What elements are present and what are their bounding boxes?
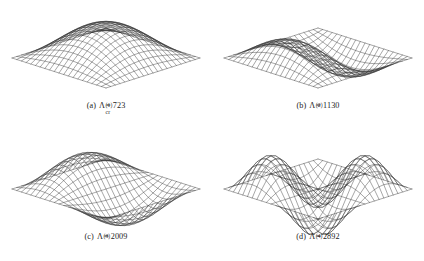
mesh-gridline-u xyxy=(243,159,337,235)
mesh-gridline-v xyxy=(21,158,115,192)
mesh-gridline-v xyxy=(295,156,389,235)
mesh-gridline-v xyxy=(64,176,158,206)
caption-b-value: 1130 xyxy=(323,101,339,110)
caption-b-tag: (b) xyxy=(296,101,306,110)
mesh-gridline-u xyxy=(26,179,120,220)
mesh-svg-d xyxy=(212,131,424,235)
mesh-gridline-v xyxy=(101,57,195,87)
caption-d-tag: (d) xyxy=(296,232,306,241)
caption-b-symbol: Λ xyxy=(309,101,315,110)
mesh-gridline-u xyxy=(238,165,332,234)
caption-a-symbol: Λ xyxy=(99,101,105,110)
subfigure-c: (c)Λ(3)=2009 xyxy=(0,131,212,261)
mesh-gridline-u xyxy=(229,57,323,87)
mesh-gridline-v xyxy=(83,40,177,81)
mesh-gridline-u xyxy=(257,159,351,228)
mesh-gridline-v xyxy=(64,25,158,75)
mesh-gridline-u xyxy=(87,27,181,64)
mesh-gridline-v xyxy=(101,188,195,218)
mesh-gridline-v xyxy=(68,27,162,76)
figure-root: (a)Λ(1)cr=723 (b)Λ(2)=1130 (c)Λ(3)=2009 … xyxy=(0,0,424,261)
caption-a-tag: (a) xyxy=(87,101,96,110)
mesh-gridline-u xyxy=(290,159,384,207)
mesh-gridline-u xyxy=(31,174,125,222)
mesh-gridline-u xyxy=(87,156,181,204)
mesh-gridline-u xyxy=(83,154,177,209)
caption-d-value: 2892 xyxy=(323,232,340,241)
mesh-gridline-u xyxy=(36,169,130,224)
caption-d-symbol: Λ xyxy=(309,232,315,241)
mesh-plot-c xyxy=(0,131,212,235)
mesh-gridline-v xyxy=(73,31,167,78)
mesh-gridline-u xyxy=(295,156,389,208)
mesh-gridline-v xyxy=(299,159,393,235)
subfigure-d: (d)Λ(4)=2892 xyxy=(212,131,424,261)
caption-b: (b)Λ(2)=1130 xyxy=(212,100,424,111)
caption-d: (d)Λ(4)=2892 xyxy=(212,231,424,242)
mesh-gridline-v xyxy=(31,27,125,64)
mesh-gridline-u xyxy=(36,40,130,81)
mesh-gridline-u xyxy=(21,184,115,219)
subfigure-a: (a)Λ(1)cr=723 xyxy=(0,0,212,130)
mesh-gridline-u xyxy=(271,43,365,73)
caption-c-value: 2009 xyxy=(111,232,128,241)
mesh-gridline-u xyxy=(252,39,346,79)
mesh-svg-b xyxy=(212,0,424,104)
caption-c-symbol: Λ xyxy=(97,232,103,241)
caption-c: (c)Λ(3)=2009 xyxy=(0,231,212,242)
mesh-gridline-u xyxy=(313,30,407,60)
caption-c-superscript: (3) xyxy=(103,231,110,242)
mesh-gridline-u xyxy=(248,156,342,235)
caption-a: (a)Λ(1)cr=723 xyxy=(0,100,212,111)
mesh-gridline-u xyxy=(45,31,139,78)
mesh-svg-c xyxy=(0,131,212,235)
mesh-gridline-v xyxy=(54,173,148,203)
caption-a-value: 723 xyxy=(113,101,126,110)
mesh-gridline-u xyxy=(309,31,403,64)
mesh-plot-a xyxy=(0,0,212,104)
caption-a-subscript: cr xyxy=(106,107,111,118)
mesh-gridline-u xyxy=(50,27,144,76)
mesh-gridline-u xyxy=(54,25,148,75)
caption-c-tag: (c) xyxy=(85,232,94,241)
mesh-gridline-v xyxy=(97,186,191,220)
subfigure-b: (b)Λ(2)=1130 xyxy=(212,0,424,130)
mesh-gridline-u xyxy=(97,160,191,195)
mesh-plot-b xyxy=(212,0,424,104)
mesh-gridline-u xyxy=(12,58,106,88)
mesh-gridline-u xyxy=(92,158,186,199)
mesh-plot-d xyxy=(212,131,424,235)
mesh-gridline-v xyxy=(17,161,111,191)
caption-d-superscript: (4) xyxy=(316,231,323,242)
mesh-gridline-u xyxy=(40,35,134,79)
mesh-svg-a xyxy=(0,0,212,104)
mesh-gridline-u xyxy=(290,37,384,77)
mesh-gridline-v xyxy=(78,35,172,79)
mesh-gridline-u xyxy=(17,57,111,87)
caption-b-superscript: (2) xyxy=(316,100,323,111)
mesh-gridline-u xyxy=(299,156,393,204)
mesh-gridline-u xyxy=(229,184,323,222)
mesh-gridline-u xyxy=(233,52,327,85)
